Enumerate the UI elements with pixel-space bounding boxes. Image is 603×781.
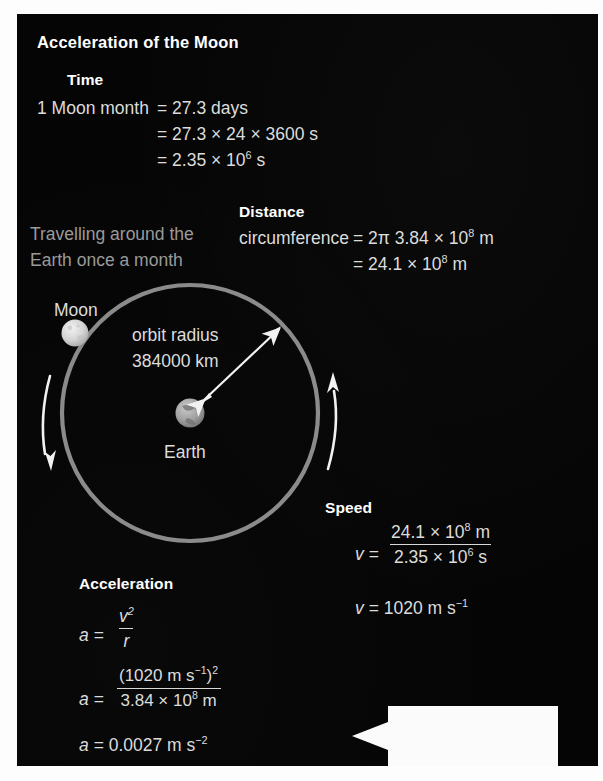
acceleration-fraction-1: v2 r <box>115 606 138 651</box>
callout-line1: acceleration found <box>396 761 531 766</box>
acceleration-eq1-denominator: r <box>119 628 133 651</box>
acceleration-eq2-numerator-pre: (1020 m s <box>119 666 195 685</box>
speed-result: v = 1020 m s−1 <box>355 600 468 618</box>
acceleration-heading: Acceleration <box>79 576 173 592</box>
moon-crater <box>68 326 73 331</box>
acceleration-result-value: 0.0027 m s <box>109 735 196 755</box>
diagram-panel: Acceleration of the Moon Time 1 Moon mon… <box>17 14 598 766</box>
motion-arrow-left-head <box>45 450 56 471</box>
speed-denominator: 2.35 × 106 s <box>390 544 491 567</box>
speed-denominator-post: s <box>473 547 487 567</box>
acceleration-eq2-numerator: (1020 m s−1)2 <box>115 666 222 688</box>
moon-body <box>62 320 89 347</box>
moon-label: Moon <box>54 302 98 320</box>
speed-numerator-pre: 24.1 × 10 <box>391 522 464 542</box>
motion-arrow-right <box>328 391 336 469</box>
callout-arrow-box: acceleration found from motion <box>352 706 558 766</box>
acceleration-result-lhs: a = <box>79 735 109 755</box>
speed-result-value: 1020 m s <box>384 598 456 618</box>
acceleration-eq1-numerator-base: v <box>119 606 128 626</box>
speed-fraction: 24.1 × 108 m 2.35 × 106 s <box>387 522 494 567</box>
acceleration-eq2-numerator-exponent-2: 2 <box>212 664 218 676</box>
speed-equation-lhs: v = <box>355 546 379 564</box>
acceleration-eq2-denominator-pre: 3.84 × 10 <box>121 691 192 710</box>
acceleration-eq2-lhs: a = <box>79 691 104 709</box>
speed-heading: Speed <box>325 500 372 516</box>
callout-text: acceleration found from motion <box>396 716 531 766</box>
moon-crater <box>77 335 83 341</box>
acceleration-result-exponent: −2 <box>195 734 207 746</box>
acceleration-eq2-denominator-post: m <box>198 691 217 710</box>
speed-numerator: 24.1 × 108 m <box>387 522 494 544</box>
orbit-radius-label-line2: 384000 km <box>132 353 219 371</box>
orbit-diagram <box>17 14 598 766</box>
speed-result-lhs: v = <box>355 598 384 618</box>
speed-result-exponent: −1 <box>456 597 468 609</box>
acceleration-eq2-numerator-exponent-1: −1 <box>195 664 207 676</box>
acceleration-eq1-numerator-exponent: 2 <box>128 605 134 617</box>
acceleration-fraction-2: (1020 m s−1)2 3.84 × 108 m <box>115 666 222 710</box>
acceleration-result: a = 0.0027 m s−2 <box>79 737 208 755</box>
orbit-radius-label-line1: orbit radius <box>132 327 219 345</box>
speed-denominator-pre: 2.35 × 10 <box>394 547 467 567</box>
earth-label: Earth <box>164 444 206 462</box>
motion-arrow-right-head <box>327 372 339 393</box>
acceleration-eq1-numerator: v2 <box>115 606 138 628</box>
acceleration-eq2-denominator: 3.84 × 108 m <box>117 688 221 711</box>
speed-numerator-post: m <box>471 522 490 542</box>
motion-arrow-left <box>43 376 50 454</box>
figure-root: Acceleration of the Moon Time 1 Moon mon… <box>0 0 603 781</box>
moon-crater <box>76 324 80 328</box>
acceleration-eq1-lhs: a = <box>79 627 104 645</box>
